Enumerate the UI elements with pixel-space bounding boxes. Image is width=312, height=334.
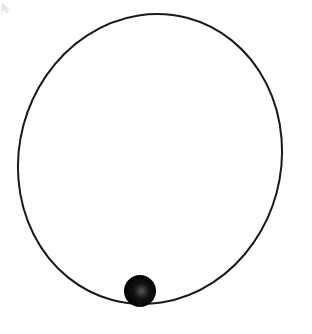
orbiting-body (124, 275, 156, 307)
cursor-icon (2, 3, 9, 13)
orbit-diagram (0, 0, 312, 334)
orbit-ellipse (0, 0, 312, 334)
